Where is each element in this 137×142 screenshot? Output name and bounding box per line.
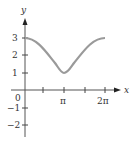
y-axis-label: y (20, 5, 27, 15)
y-axis-arrow-icon (23, 18, 28, 25)
y-tick-label-neg2: −2 (7, 120, 20, 130)
x-tick-label-pi: π (60, 96, 66, 106)
x-axis-label: x (124, 85, 129, 95)
x-tick-label-2pi: 2π (97, 96, 109, 106)
x-axis-arrow-icon (114, 88, 121, 93)
y-tick-label-neg1: −1 (7, 103, 20, 113)
y-tick-label-2: 2 (12, 50, 18, 60)
origin-label: 0 (15, 93, 21, 103)
y-tick-label-1: 1 (12, 68, 18, 78)
y-tick-label-3: 3 (12, 33, 18, 43)
curve-2-plus-cos-x (25, 38, 105, 73)
chart: y x 0 π 2π 3 2 1 −1 −2 (0, 0, 137, 142)
